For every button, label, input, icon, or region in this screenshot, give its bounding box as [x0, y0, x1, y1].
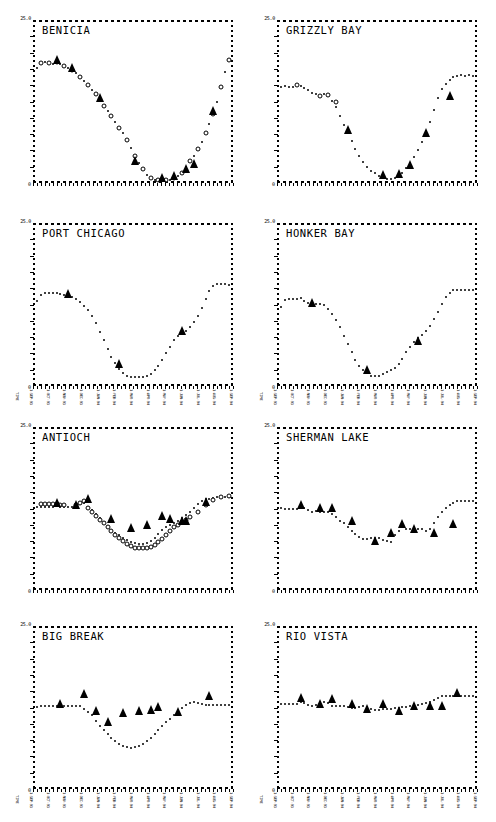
plot-area: 25.00BENICIA — [33, 20, 233, 183]
data-point-filled-triangle — [316, 699, 324, 708]
data-point-filled-dot — [284, 508, 286, 510]
data-point-filled-dot — [374, 709, 376, 711]
x-axis-tick — [353, 590, 354, 593]
x-axis-tick — [133, 183, 134, 186]
data-point-filled-triangle — [446, 91, 454, 100]
panel-title: BIG BREAK — [42, 630, 104, 642]
x-axis-tick — [193, 590, 194, 593]
data-point-open-circle — [333, 100, 338, 105]
x-axis-ticks — [33, 590, 233, 593]
data-point-filled-dot — [339, 326, 341, 328]
data-point-filled-dot — [362, 538, 364, 540]
x-axis-tick — [85, 590, 86, 593]
panel-title: ANTIOCH — [42, 431, 90, 443]
data-point-filled-dot — [347, 343, 349, 345]
data-point-filled-dot — [67, 506, 69, 508]
data-point-filled-dot — [216, 283, 218, 285]
data-point-filled-triangle — [190, 159, 198, 168]
data-point-filled-dot — [386, 371, 388, 373]
data-point-filled-triangle — [84, 494, 92, 503]
x-axis-tick — [313, 183, 314, 186]
data-point-filled-triangle — [119, 708, 127, 717]
data-point-filled-dot — [126, 375, 128, 377]
data-point-open-circle — [148, 175, 153, 180]
data-point-filled-dot — [154, 369, 156, 371]
x-axis-tick — [365, 590, 366, 593]
x-axis-labels: TIME1-SEP-931-OCT-931-NOV-931-DEC-931-JA… — [277, 389, 477, 417]
data-point-open-circle — [101, 104, 106, 109]
y-axis-max-label: 25.0 — [264, 218, 275, 224]
y-axis-tick — [30, 691, 34, 692]
x-axis-tick-label: 1-APR-94 — [390, 792, 394, 808]
data-point-filled-dot — [36, 67, 38, 69]
y-axis-tick — [30, 443, 34, 444]
data-point-filled-dot — [280, 306, 282, 308]
y-axis-max-label: 25.0 — [264, 15, 275, 21]
x-axis-tick-label: 1-AUG-94 — [456, 389, 460, 405]
x-axis-tick — [449, 183, 450, 186]
data-point-filled-dot — [445, 507, 447, 509]
x-axis-tick-label: 1-NOV-93 — [62, 389, 66, 405]
data-point-filled-triangle — [80, 689, 88, 698]
data-point-filled-dot — [288, 508, 290, 510]
x-axis-tick — [413, 183, 414, 186]
y-axis-tick — [274, 525, 278, 526]
x-axis-tick — [149, 590, 150, 593]
y-axis-max-label: 25.0 — [264, 422, 275, 428]
x-axis-tick — [181, 590, 182, 593]
data-point-filled-triangle — [328, 503, 336, 512]
plot-area: 25.00BIG BREAKTIME1-SEP-931-OCT-931-NOV-… — [33, 626, 233, 789]
data-point-filled-dot — [437, 516, 439, 518]
x-axis-tick-label: 1-NOV-93 — [306, 389, 310, 405]
x-axis-tick — [429, 590, 430, 593]
x-axis-name: TIME — [15, 795, 19, 804]
x-axis-tick — [305, 183, 306, 186]
x-axis-tick — [325, 183, 326, 186]
data-point-filled-triangle — [344, 125, 352, 134]
data-point-filled-triangle — [410, 701, 418, 710]
x-axis-tick — [73, 183, 74, 186]
data-point-filled-dot — [79, 301, 81, 303]
x-axis-tick — [417, 590, 418, 593]
x-axis-tick — [333, 590, 334, 593]
x-axis-tick — [45, 183, 46, 186]
panel-title: SHERMAN LAKE — [286, 431, 369, 443]
x-axis-labels: TIME1-SEP-931-OCT-931-NOV-931-DEC-931-JA… — [33, 792, 233, 820]
x-axis-tick-label: 1-JAN-94 — [96, 792, 100, 808]
data-point-filled-dot — [142, 743, 144, 745]
data-point-filled-triangle — [316, 503, 324, 512]
data-point-filled-dot — [169, 718, 171, 720]
y-axis-tick — [274, 476, 278, 477]
x-axis-tick — [337, 590, 338, 593]
x-axis-tick — [117, 590, 118, 593]
x-axis-tick — [69, 183, 70, 186]
x-axis-tick — [473, 183, 474, 186]
y-axis-tick — [274, 756, 278, 757]
data-point-filled-dot — [280, 86, 282, 88]
x-axis-tick-label: 1-MAY-94 — [162, 792, 166, 808]
x-axis-tick — [409, 590, 410, 593]
x-axis-tick-label: 1-FEB-94 — [112, 389, 116, 405]
x-axis-tick — [405, 590, 406, 593]
data-point-open-circle — [85, 83, 90, 88]
x-axis-tick-label: 1-JAN-94 — [340, 792, 344, 808]
x-axis-tick — [101, 183, 102, 186]
data-point-filled-triangle — [115, 359, 123, 368]
panel-benicia: 25.00BENICIA — [33, 20, 233, 183]
data-point-filled-dot — [83, 80, 85, 82]
y-axis-tick — [274, 118, 278, 119]
x-axis-tick — [309, 183, 310, 186]
x-axis-tick — [77, 590, 78, 593]
x-axis-tick — [341, 183, 342, 186]
data-point-filled-dot — [449, 79, 451, 81]
x-axis-tick — [225, 590, 226, 593]
plot-frame — [277, 427, 477, 590]
plot-frame — [33, 427, 233, 590]
y-axis-tick — [30, 69, 34, 70]
x-axis-tick — [377, 590, 378, 593]
x-axis-tick — [449, 590, 450, 593]
x-axis-tick — [277, 590, 278, 593]
data-point-filled-triangle — [328, 694, 336, 703]
data-point-filled-dot — [398, 530, 400, 532]
x-axis-tick — [113, 590, 114, 593]
